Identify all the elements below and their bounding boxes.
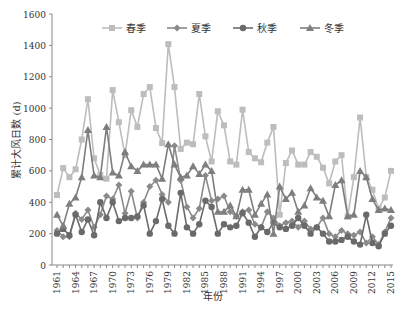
y-tick-label: 200 bbox=[29, 229, 46, 239]
x-tick-label: 2000 bbox=[293, 271, 303, 294]
y-tick-label: 1000 bbox=[23, 104, 46, 114]
x-tick-label: 2015 bbox=[386, 271, 396, 294]
y-axis: 02004006008001000120014001600 bbox=[23, 10, 52, 271]
data-series bbox=[53, 41, 395, 249]
legend-item: 春季 bbox=[102, 23, 146, 34]
y-tick-label: 600 bbox=[29, 166, 46, 176]
y-tick-label: 1600 bbox=[23, 10, 46, 20]
y-tick-label: 1400 bbox=[23, 41, 46, 51]
y-tick-label: 1200 bbox=[23, 72, 46, 82]
x-tick-label: 1994 bbox=[256, 271, 266, 294]
x-tick-label: 1961 bbox=[52, 271, 62, 294]
y-tick-label: 400 bbox=[29, 198, 46, 208]
x-tick-label: 1970 bbox=[108, 271, 118, 294]
x-axis-label: 年份 bbox=[203, 290, 223, 302]
legend-item: 秋季 bbox=[233, 22, 277, 34]
legend-label: 冬季 bbox=[324, 22, 344, 34]
y-tick-label: 800 bbox=[29, 135, 46, 145]
x-tick-label: 2003 bbox=[312, 271, 322, 294]
y-tick-label: 0 bbox=[40, 261, 46, 271]
chart-legend: 春季夏季秋季冬季 bbox=[102, 22, 344, 34]
legend-item: 冬季 bbox=[300, 22, 344, 34]
x-tick-label: 1967 bbox=[89, 271, 99, 294]
x-tick-label: 1991 bbox=[238, 271, 248, 294]
legend-label: 秋季 bbox=[257, 22, 277, 34]
x-tick-label: 2012 bbox=[367, 271, 377, 294]
y-axis-label: 累计大风日数 (d) bbox=[10, 101, 22, 178]
legend-label: 夏季 bbox=[191, 23, 211, 34]
x-tick-label: 1973 bbox=[126, 271, 136, 294]
x-tick-label: 2006 bbox=[330, 271, 340, 294]
x-tick-label: 1997 bbox=[275, 271, 285, 294]
x-axis: 1961196419671970197319761979198219851988… bbox=[52, 265, 396, 294]
x-tick-label: 1964 bbox=[71, 271, 81, 294]
x-tick-label: 1982 bbox=[182, 271, 192, 294]
legend-label: 春季 bbox=[126, 23, 146, 34]
x-tick-label: 1979 bbox=[163, 271, 173, 294]
x-tick-label: 1976 bbox=[145, 271, 155, 294]
x-tick-label: 2009 bbox=[349, 271, 359, 294]
legend-item: 夏季 bbox=[167, 23, 211, 34]
line-chart: 春季夏季秋季冬季 02004006008001000120014001600 1… bbox=[0, 0, 403, 313]
